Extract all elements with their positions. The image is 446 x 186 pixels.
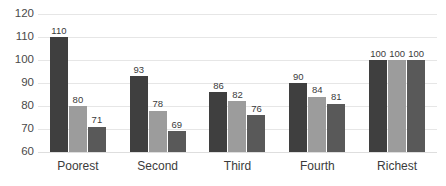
bar-second-series-2: 78 xyxy=(149,14,167,152)
bar-second-series-1: 93 xyxy=(130,14,148,152)
bar-rect xyxy=(369,60,387,152)
bar-third-series-3: 76 xyxy=(247,14,265,152)
category-label-second: Second xyxy=(137,160,178,172)
bar-value-label: 86 xyxy=(213,81,224,91)
bar-rect xyxy=(289,83,307,152)
bar-rect xyxy=(407,60,425,152)
bar-value-label: 110 xyxy=(51,26,66,36)
y-tick-label-100: 100 xyxy=(0,54,34,66)
bar-rect xyxy=(228,101,246,152)
y-tick-label-90: 90 xyxy=(0,77,34,89)
bar-rect xyxy=(50,37,68,152)
bar-value-label: 100 xyxy=(370,49,386,59)
bar-value-label: 81 xyxy=(331,92,342,102)
gridline-60 xyxy=(38,152,437,153)
bar-value-label: 78 xyxy=(152,99,163,109)
bar-value-label: 71 xyxy=(92,115,103,125)
bar-value-label: 84 xyxy=(312,85,323,95)
bar-chart: 1108071937869868276908481100100100 12011… xyxy=(0,0,446,186)
bar-rect xyxy=(308,97,326,152)
category-label-richest: Richest xyxy=(377,160,417,172)
bar-group-richest: 100100100 xyxy=(357,14,437,152)
bar-fourth-series-3: 81 xyxy=(327,14,345,152)
bar-group-bars: 1108071 xyxy=(38,14,118,152)
bar-group-poorest: 1108071 xyxy=(38,14,118,152)
plot-area: 1108071937869868276908481100100100 xyxy=(38,14,437,152)
bar-rect xyxy=(130,76,148,152)
bar-third-series-2: 82 xyxy=(228,14,246,152)
bar-rect xyxy=(209,92,227,152)
y-tick-label-110: 110 xyxy=(0,31,34,43)
bar-group-second: 937869 xyxy=(118,14,198,152)
bar-value-label: 80 xyxy=(73,95,84,105)
bar-poorest-series-3: 71 xyxy=(88,14,106,152)
category-label-fourth: Fourth xyxy=(300,160,335,172)
category-label-third: Third xyxy=(224,160,251,172)
bar-group-bars: 937869 xyxy=(118,14,198,152)
bar-group-third: 868276 xyxy=(198,14,278,152)
bar-group-bars: 908481 xyxy=(277,14,357,152)
bar-poorest-series-2: 80 xyxy=(69,14,87,152)
bar-value-label: 82 xyxy=(232,90,243,100)
bar-poorest-series-1: 110 xyxy=(50,14,68,152)
bar-value-label: 100 xyxy=(389,49,405,59)
bar-group-fourth: 908481 xyxy=(277,14,357,152)
bar-rect xyxy=(88,127,106,152)
bar-rect xyxy=(388,60,406,152)
category-label-poorest: Poorest xyxy=(57,160,98,172)
bar-rect xyxy=(247,115,265,152)
y-tick-label-70: 70 xyxy=(0,123,34,135)
bar-value-label: 69 xyxy=(171,120,182,130)
bar-second-series-3: 69 xyxy=(168,14,186,152)
bar-value-label: 76 xyxy=(251,104,262,114)
y-tick-label-80: 80 xyxy=(0,100,34,112)
bar-group-bars: 100100100 xyxy=(357,14,437,152)
bar-richest-series-1: 100 xyxy=(369,14,387,152)
bar-fourth-series-2: 84 xyxy=(308,14,326,152)
bar-rect xyxy=(168,131,186,152)
bar-value-label: 93 xyxy=(133,65,144,75)
bar-value-label: 90 xyxy=(293,72,304,82)
bar-rect xyxy=(149,111,167,152)
bar-rect xyxy=(327,104,345,152)
bar-third-series-1: 86 xyxy=(209,14,227,152)
bar-group-bars: 868276 xyxy=(198,14,278,152)
bar-rect xyxy=(69,106,87,152)
bar-value-label: 100 xyxy=(408,49,424,59)
bar-fourth-series-1: 90 xyxy=(289,14,307,152)
y-tick-label-120: 120 xyxy=(0,8,34,20)
bar-richest-series-2: 100 xyxy=(388,14,406,152)
bar-richest-series-3: 100 xyxy=(407,14,425,152)
y-tick-label-60: 60 xyxy=(0,146,34,158)
